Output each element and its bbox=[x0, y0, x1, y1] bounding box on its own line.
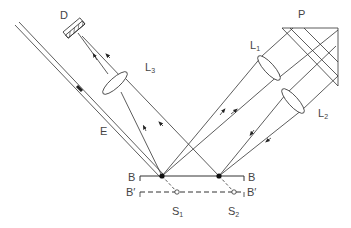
mirror-b bbox=[140, 176, 244, 181]
ray-arrows bbox=[94, 55, 271, 141]
label-lens-l2: L2 bbox=[318, 108, 328, 120]
label-detector: D bbox=[60, 10, 68, 21]
incident-beam-e bbox=[15, 22, 164, 177]
label-beam-e: E bbox=[100, 126, 107, 137]
label-mirror-left: B bbox=[128, 172, 135, 183]
label-mirror-right: B bbox=[248, 172, 255, 183]
virtual-ray-s2 bbox=[219, 176, 234, 192]
source-s2 bbox=[232, 190, 236, 194]
optical-diagram bbox=[0, 0, 351, 228]
label-lens-l1: L1 bbox=[250, 40, 260, 52]
label-image-left: B′ bbox=[126, 187, 135, 198]
label-lens-l3: L3 bbox=[145, 62, 155, 74]
reflection-point-2 bbox=[216, 173, 221, 178]
label-source-s2: S2 bbox=[228, 206, 239, 218]
label-source-s1: S1 bbox=[172, 206, 183, 218]
label-image-right: B′ bbox=[247, 187, 256, 198]
lens-l2 bbox=[279, 86, 308, 116]
reflection-point-1 bbox=[159, 173, 164, 178]
label-prism: P bbox=[298, 9, 305, 20]
virtual-ray-s1 bbox=[162, 176, 177, 192]
lens-l1 bbox=[255, 53, 284, 83]
lens-l3 bbox=[100, 69, 130, 98]
source-s1 bbox=[175, 190, 179, 194]
